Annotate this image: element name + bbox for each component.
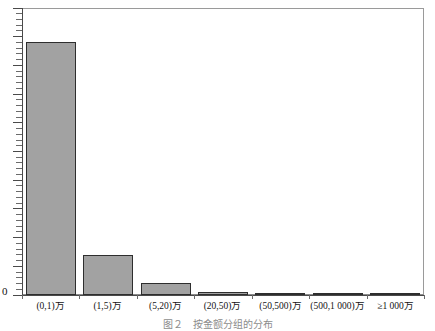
- figure-container: 0 (0,1)万(1,5)万(5,20)万(20,50)万(50,500)万(5…: [0, 0, 435, 331]
- x-axis-category-label: ≥1 000万: [361, 300, 430, 312]
- bar: [255, 293, 305, 295]
- bar: [26, 42, 76, 295]
- bar: [370, 293, 420, 295]
- bar-series: [0, 0, 435, 331]
- bar: [141, 283, 191, 295]
- bar: [313, 293, 363, 295]
- bar: [83, 255, 133, 295]
- bar: [198, 292, 248, 295]
- figure-caption: 图２ 按金额分组的分布: [0, 319, 435, 331]
